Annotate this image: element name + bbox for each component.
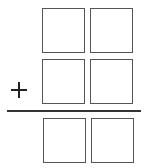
addend-1-ones-box[interactable] bbox=[90, 8, 133, 53]
sum-line bbox=[7, 110, 141, 112]
sum-tens-box[interactable] bbox=[43, 118, 86, 163]
sum-ones-box[interactable] bbox=[91, 118, 134, 163]
addend-1-tens-box[interactable] bbox=[42, 8, 85, 53]
addend-2-tens-box[interactable] bbox=[42, 59, 85, 104]
addend-2-ones-box[interactable] bbox=[90, 59, 133, 104]
